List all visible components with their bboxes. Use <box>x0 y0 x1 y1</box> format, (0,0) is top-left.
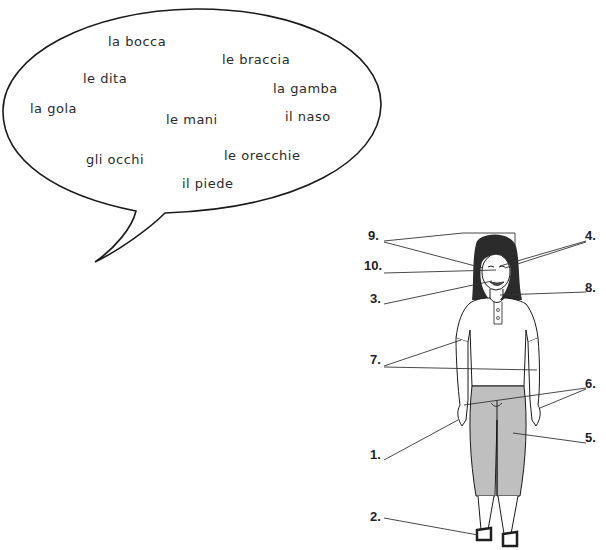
number-label-5: 5. <box>585 430 596 445</box>
number-label-2: 2. <box>370 509 381 524</box>
left-sandal <box>477 528 491 540</box>
body-figure-illustration <box>0 0 606 550</box>
number-label-4: 4. <box>585 228 596 243</box>
right-sandal <box>503 532 517 546</box>
number-label-1: 1. <box>370 447 381 462</box>
number-label-6: 6. <box>585 376 596 391</box>
number-label-7: 7. <box>370 352 381 367</box>
number-label-8: 8. <box>585 280 596 295</box>
right-leg <box>498 496 518 534</box>
left-arm <box>456 338 468 426</box>
number-label-3: 3. <box>370 291 381 306</box>
right-arm <box>528 338 540 426</box>
left-leg <box>478 496 494 530</box>
number-label-10: 10. <box>364 258 382 273</box>
pants <box>470 386 526 496</box>
number-label-9: 9. <box>368 228 379 243</box>
